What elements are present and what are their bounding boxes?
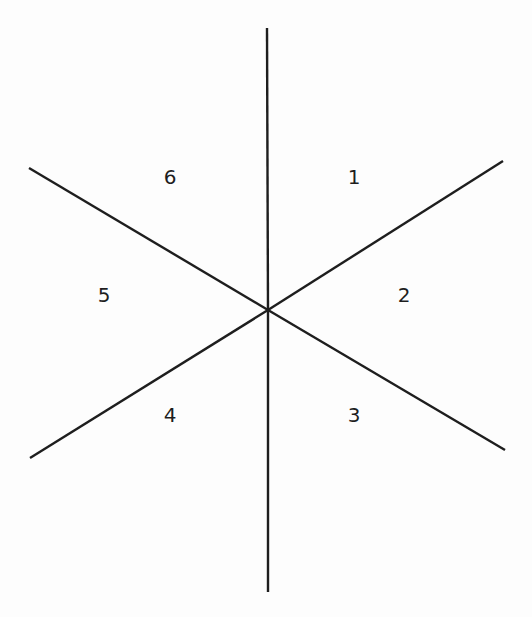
- sector-label-1: 1: [348, 165, 361, 189]
- six-sector-diagram: 1 2 3 4 5 6: [0, 0, 532, 617]
- ray-up: [267, 28, 268, 310]
- sector-label-6: 6: [164, 165, 177, 189]
- sector-label-5: 5: [98, 283, 111, 307]
- ray-upper-left: [29, 168, 268, 310]
- sector-label-2: 2: [398, 283, 411, 307]
- rays: [29, 28, 505, 592]
- sector-label-4: 4: [164, 403, 177, 427]
- ray-lower-left: [30, 310, 268, 458]
- ray-lower-right: [268, 310, 505, 450]
- sector-label-3: 3: [348, 403, 361, 427]
- ray-upper-right: [268, 161, 503, 310]
